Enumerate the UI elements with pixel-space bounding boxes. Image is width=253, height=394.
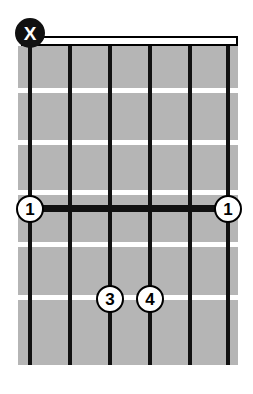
nut-bar	[21, 36, 238, 46]
fret-line-4	[18, 242, 238, 247]
fret-line-1	[18, 88, 238, 93]
finger-marker-1-string-6[interactable]: 1	[214, 195, 242, 223]
barre-bar-finger-1	[30, 205, 228, 212]
finger-marker-label: 1	[25, 201, 34, 218]
muted-string-label: X	[24, 24, 37, 43]
finger-marker-label: 4	[145, 291, 154, 308]
muted-string-marker-string-1[interactable]: X	[15, 18, 45, 48]
fret-line-5	[18, 295, 238, 300]
fret-line-2	[18, 140, 238, 145]
finger-marker-1-string-1[interactable]: 1	[16, 195, 44, 223]
fret-line-3	[18, 190, 238, 195]
finger-marker-label: 3	[105, 291, 114, 308]
finger-marker-label: 1	[223, 201, 232, 218]
chord-diagram: 1 1 3 4 X	[0, 0, 253, 394]
finger-marker-4-string-4[interactable]: 4	[136, 285, 164, 313]
finger-marker-3-string-3[interactable]: 3	[96, 285, 124, 313]
